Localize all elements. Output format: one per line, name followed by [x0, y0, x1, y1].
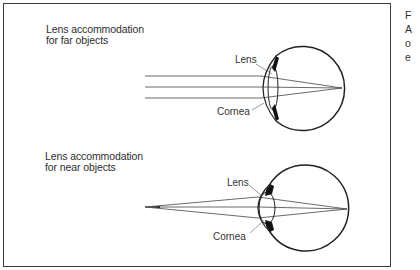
near-lens-label: Lens — [227, 177, 249, 188]
far-eyeball — [276, 46, 345, 130]
near-lens — [259, 192, 275, 224]
near-diverging-rays — [145, 197, 347, 218]
side-caption-line: e — [405, 50, 412, 64]
far-eye-group: Lens Cornea — [145, 46, 345, 130]
far-cornea-label: Cornea — [217, 106, 250, 117]
far-iris-bottom — [272, 104, 279, 121]
near-eye-group: Lens Cornea — [145, 165, 349, 251]
side-caption-line: A — [405, 22, 412, 36]
near-cornea-label: Cornea — [213, 231, 246, 242]
near-iris-bottom — [265, 220, 274, 232]
side-caption-line: F — [405, 8, 412, 22]
eye-diagram: Lens Cornea Lens Cornea — [0, 0, 420, 270]
side-caption-line: o — [405, 36, 412, 50]
far-parallel-rays — [145, 76, 342, 98]
near-iris-top — [265, 184, 274, 196]
far-iris-top — [272, 56, 279, 72]
far-lens-label: Lens — [235, 54, 257, 65]
side-caption: F A o e — [405, 8, 412, 64]
